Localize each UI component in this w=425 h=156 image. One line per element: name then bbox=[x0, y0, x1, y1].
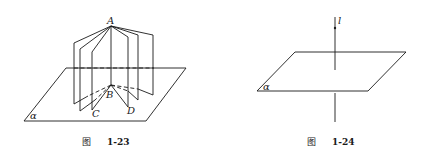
half-plane-5 bbox=[111, 26, 138, 100]
point-on-line-icon bbox=[334, 27, 336, 29]
line-plane-diagram: l α 图 1-24 bbox=[212, 0, 425, 156]
half-plane-6 bbox=[111, 26, 153, 95]
caption-prefix: 图 bbox=[82, 137, 91, 147]
label-b: B bbox=[105, 89, 113, 100]
half-planes-diagram: A B C D α 图 1-23 bbox=[0, 0, 212, 156]
label-d: D bbox=[126, 105, 135, 116]
plane-alpha bbox=[257, 52, 406, 91]
half-plane-d bbox=[111, 26, 128, 107]
label-alpha: α bbox=[263, 81, 270, 92]
caption-prefix: 图 bbox=[307, 137, 316, 147]
label-alpha: α bbox=[30, 110, 37, 121]
plane-alpha bbox=[24, 68, 186, 121]
caption-number: 1-24 bbox=[332, 137, 355, 147]
label-l: l bbox=[338, 15, 341, 26]
label-a: A bbox=[106, 15, 114, 26]
caption-number: 1-23 bbox=[107, 137, 130, 147]
label-c: C bbox=[92, 108, 100, 119]
figure-1-24: l α 图 1-24 bbox=[212, 0, 425, 156]
figure-1-23: A B C D α 图 1-23 bbox=[0, 0, 212, 156]
